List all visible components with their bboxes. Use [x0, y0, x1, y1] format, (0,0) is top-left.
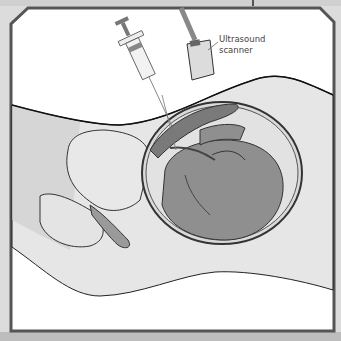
label-line-1: Ultrasound — [219, 34, 265, 45]
label-line-2: scanner — [219, 45, 265, 56]
fetus — [162, 140, 283, 240]
diagram-figure: Ultrasound scanner — [0, 0, 341, 341]
ultrasound-scanner-label: Ultrasound scanner — [219, 34, 265, 56]
amniocentesis-illustration — [0, 0, 341, 341]
